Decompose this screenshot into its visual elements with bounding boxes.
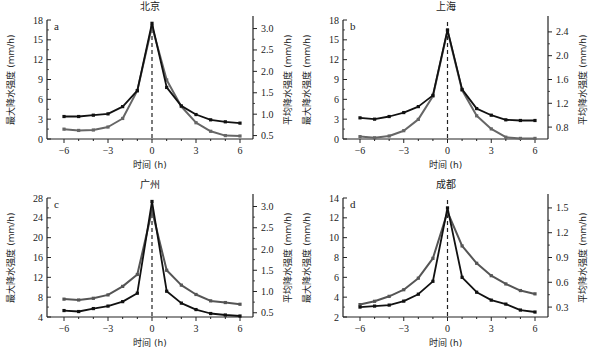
y-tick-label-right: 0.5 — [261, 130, 274, 141]
data-point — [402, 288, 405, 291]
data-point — [519, 137, 522, 140]
data-point — [490, 127, 493, 130]
data-point — [533, 292, 536, 295]
data-point — [92, 128, 95, 131]
panel-letter: a — [54, 20, 59, 32]
data-point — [180, 104, 183, 107]
data-point — [209, 312, 212, 315]
data-point — [77, 129, 80, 132]
data-point — [475, 107, 478, 110]
panel-title: 广州 — [140, 179, 160, 190]
y-axis-title-right: 平均降水强度 (mm/h) — [577, 34, 588, 124]
data-point — [194, 293, 197, 296]
x-tick-label: 3 — [194, 323, 199, 334]
x-tick-label: −6 — [59, 145, 70, 156]
panel-letter: c — [54, 198, 59, 210]
data-point — [388, 115, 391, 118]
y-tick-label-right: 2.5 — [261, 222, 274, 233]
y-tick-label-left: 24 — [33, 212, 43, 223]
data-point — [460, 276, 463, 279]
y-tick-label-left: 6 — [334, 272, 339, 283]
data-point — [62, 115, 65, 118]
panel-c: 4812162024280.51.01.52.02.53.0−6−3036广州c… — [5, 179, 293, 348]
data-point — [77, 310, 80, 313]
x-tick-label: 0 — [150, 323, 155, 334]
data-point — [533, 119, 536, 122]
data-point — [62, 128, 65, 131]
data-point — [475, 114, 478, 117]
data-point — [238, 303, 241, 306]
data-point — [77, 298, 80, 301]
data-point — [402, 129, 405, 132]
data-point — [106, 112, 109, 115]
data-point — [180, 302, 183, 305]
data-point — [209, 299, 212, 302]
x-tick-label: −3 — [398, 145, 409, 156]
x-tick-label: −6 — [59, 323, 70, 334]
y-tick-label-left: 18 — [329, 15, 339, 26]
data-point — [180, 284, 183, 287]
y-tick-label-right: 1.0 — [261, 109, 274, 120]
data-point — [373, 118, 376, 121]
data-point — [209, 118, 212, 121]
data-point — [373, 300, 376, 303]
data-point — [92, 114, 95, 117]
data-point — [490, 274, 493, 277]
data-point — [224, 313, 227, 316]
x-tick-label: 0 — [445, 323, 450, 334]
y-tick-label-left: 15 — [33, 34, 43, 45]
y-tick-label-left: 8 — [334, 252, 339, 263]
x-tick-label: −3 — [103, 323, 114, 334]
y-tick-label-left: 28 — [33, 193, 43, 204]
data-point — [150, 200, 153, 203]
y-tick-label-left: 16 — [33, 252, 43, 263]
y-tick-label-left: 15 — [329, 34, 339, 45]
data-point — [136, 292, 139, 295]
x-tick-label: 3 — [489, 145, 494, 156]
y-axis-title-left: 最大降水强度 (mm/h) — [5, 34, 16, 124]
data-point — [417, 277, 420, 280]
data-point — [446, 28, 449, 31]
figure: 03691215180.51.01.52.02.53.0−6−3036北京a时间… — [0, 0, 600, 358]
y-tick-label-right: 2.0 — [261, 244, 274, 255]
data-point — [388, 134, 391, 137]
data-point — [417, 118, 420, 121]
data-point — [402, 300, 405, 303]
y-tick-label-left: 9 — [38, 74, 43, 85]
panel-letter: b — [350, 20, 356, 32]
data-point — [373, 304, 376, 307]
x-tick-label: 0 — [445, 145, 450, 156]
y-tick-label-right: 1.5 — [556, 202, 569, 213]
chart-canvas: 03691215180.51.01.52.02.53.0−6−3036北京a时间… — [0, 0, 600, 358]
data-point — [519, 308, 522, 311]
data-point — [121, 105, 124, 108]
panel-title: 成都 — [436, 179, 456, 190]
data-point — [504, 303, 507, 306]
data-point — [194, 113, 197, 116]
x-axis-title: 时间 (h) — [133, 159, 167, 170]
x-tick-label: −3 — [103, 145, 114, 156]
data-point — [533, 137, 536, 140]
x-tick-label: 3 — [194, 145, 199, 156]
data-point — [224, 120, 227, 123]
data-point — [77, 115, 80, 118]
data-point — [238, 314, 241, 317]
y-tick-label-left: 12 — [329, 54, 339, 65]
y-tick-label-left: 12 — [33, 272, 43, 283]
y-tick-label-right: 2.0 — [556, 50, 569, 61]
x-tick-label: 0 — [150, 145, 155, 156]
y-tick-label-right: 0.8 — [556, 122, 569, 133]
data-point — [194, 121, 197, 124]
data-point — [417, 293, 420, 296]
data-point — [121, 300, 124, 303]
y-axis-title-left: 最大降水强度 (mm/h) — [301, 34, 312, 124]
y-tick-label-right: 1.5 — [261, 265, 274, 276]
data-point — [209, 130, 212, 133]
data-point — [533, 310, 536, 313]
data-point — [106, 293, 109, 296]
data-point — [358, 116, 361, 119]
y-tick-label-right: 0.5 — [261, 307, 274, 318]
data-point — [519, 289, 522, 292]
y-tick-label-left: 12 — [329, 212, 339, 223]
data-point — [92, 307, 95, 310]
